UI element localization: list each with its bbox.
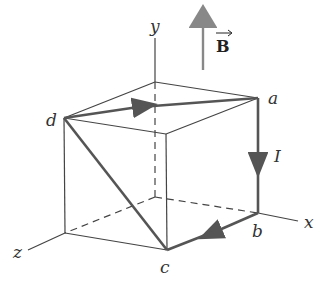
segment-cd	[64, 118, 167, 250]
z-axis	[28, 233, 65, 250]
z-axis-label: z	[12, 242, 23, 262]
x-axis	[258, 213, 298, 221]
vertex-d-label: d	[46, 110, 57, 130]
hidden-edges	[65, 197, 258, 233]
y-axis-label: y	[149, 16, 160, 36]
field-label: B	[216, 37, 230, 56]
segment-bc	[210, 213, 258, 234]
segment-da	[64, 106, 145, 118]
x-axis-label: x	[304, 212, 314, 232]
vertex-a-label: a	[268, 88, 278, 108]
current-loop	[64, 98, 258, 250]
vertex-b-label: b	[252, 221, 263, 241]
vertex-c-label: c	[160, 257, 170, 277]
cube-diagram: B y x z a b c d I	[0, 0, 323, 286]
current-label: I	[273, 146, 281, 166]
magnetic-field-arrow: B	[203, 16, 232, 70]
